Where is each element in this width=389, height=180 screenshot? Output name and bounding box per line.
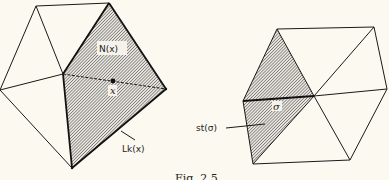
leader-line	[121, 131, 135, 140]
edge	[253, 160, 350, 164]
edge	[36, 3, 109, 6]
left-complex: N(x) x Lk(x)	[0, 3, 167, 169]
edge	[36, 6, 63, 74]
edge	[314, 27, 374, 96]
edge	[350, 89, 387, 160]
edge	[314, 89, 387, 96]
label-star: st(σ)	[196, 123, 217, 133]
edge	[0, 6, 36, 90]
label-sigma: σ	[273, 101, 281, 112]
label-link: Lk(x)	[122, 144, 145, 154]
edge	[314, 96, 350, 160]
label-point-x: x	[110, 85, 116, 96]
edge	[0, 90, 72, 168]
figure-canvas: N(x) x Lk(x) σ st(σ) Fig. 2.5	[0, 0, 389, 180]
edge	[277, 27, 374, 29]
vertex	[165, 88, 167, 90]
label-neighbourhood: N(x)	[99, 44, 118, 54]
edge	[0, 74, 63, 90]
right-complex: σ st(σ)	[196, 27, 387, 164]
point-x	[111, 79, 116, 84]
figure-caption: Fig. 2.5	[175, 172, 218, 180]
vertex	[71, 167, 73, 169]
edge	[374, 27, 387, 89]
